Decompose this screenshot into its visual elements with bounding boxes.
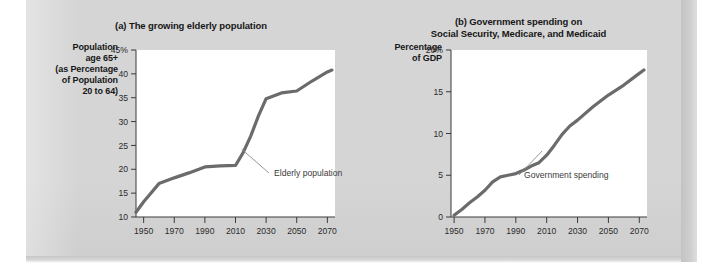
x-tick-label-2050: 2050 [599,226,618,236]
y-tick-label-40: 40 [118,69,128,79]
y-tick-label-35: 35 [118,93,128,103]
x-tick-label-1990: 1990 [506,226,525,236]
x-tick-label-1950: 1950 [134,226,153,236]
panel-bottom-shadow [26,256,681,263]
chart-a-y-tick-labels: 1015202530354045% [111,45,129,222]
panel-right-edge [681,0,697,262]
y-tick-label-45%: 45% [111,45,129,55]
y-tick-label-5: 5 [438,170,443,180]
y-tick-label-15: 15 [433,87,443,97]
chart-b-government-spending: (b) Government spending on Social Securi… [356,0,681,256]
chart-a-plot-background [136,50,335,217]
y-tick-label-25: 25 [118,141,128,151]
chart-a-elderly-population: (a) The growing elderly population Popul… [26,0,356,256]
chart-b-y-tick-labels: 05101520% [426,45,444,222]
chart-a-x-tick-labels: 1950197019902010203020502070 [134,226,337,236]
chart-b-plot: 05101520% 1950197019902010203020502070 G… [356,0,681,256]
y-tick-label-30: 30 [118,117,128,127]
chart-a-annotation-label: Elderly population [274,168,343,178]
chart-a-plot: 1015202530354045% 1950197019902010203020… [26,0,356,256]
chart-b-plot-background [451,50,647,217]
x-tick-label-2010: 2010 [226,226,245,236]
y-tick-label-20%: 20% [426,45,444,55]
x-tick-label-2070: 2070 [318,226,337,236]
chart-a-y-tick-marks [131,50,136,217]
y-tick-label-20: 20 [118,164,128,174]
x-tick-label-2030: 2030 [568,226,587,236]
chart-b-y-tick-marks [446,50,451,217]
x-tick-label-2010: 2010 [537,226,556,236]
x-tick-label-2050: 2050 [287,226,306,236]
x-tick-label-1990: 1990 [195,226,214,236]
chart-b-x-tick-marks [454,217,639,223]
y-tick-label-0: 0 [438,212,443,222]
chart-a-x-tick-marks [144,217,328,223]
figure-root: (a) The growing elderly population Popul… [0,0,703,271]
chart-b-x-tick-labels: 1950197019902010203020502070 [445,226,650,236]
y-tick-label-10: 10 [118,212,128,222]
x-tick-label-2030: 2030 [257,226,276,236]
x-tick-label-1970: 1970 [475,226,494,236]
y-tick-label-10: 10 [433,129,443,139]
y-tick-label-15: 15 [118,188,128,198]
chart-b-annotation-label: Government spending [524,170,609,180]
x-tick-label-1950: 1950 [445,226,464,236]
x-tick-label-2070: 2070 [630,226,649,236]
x-tick-label-1970: 1970 [165,226,184,236]
